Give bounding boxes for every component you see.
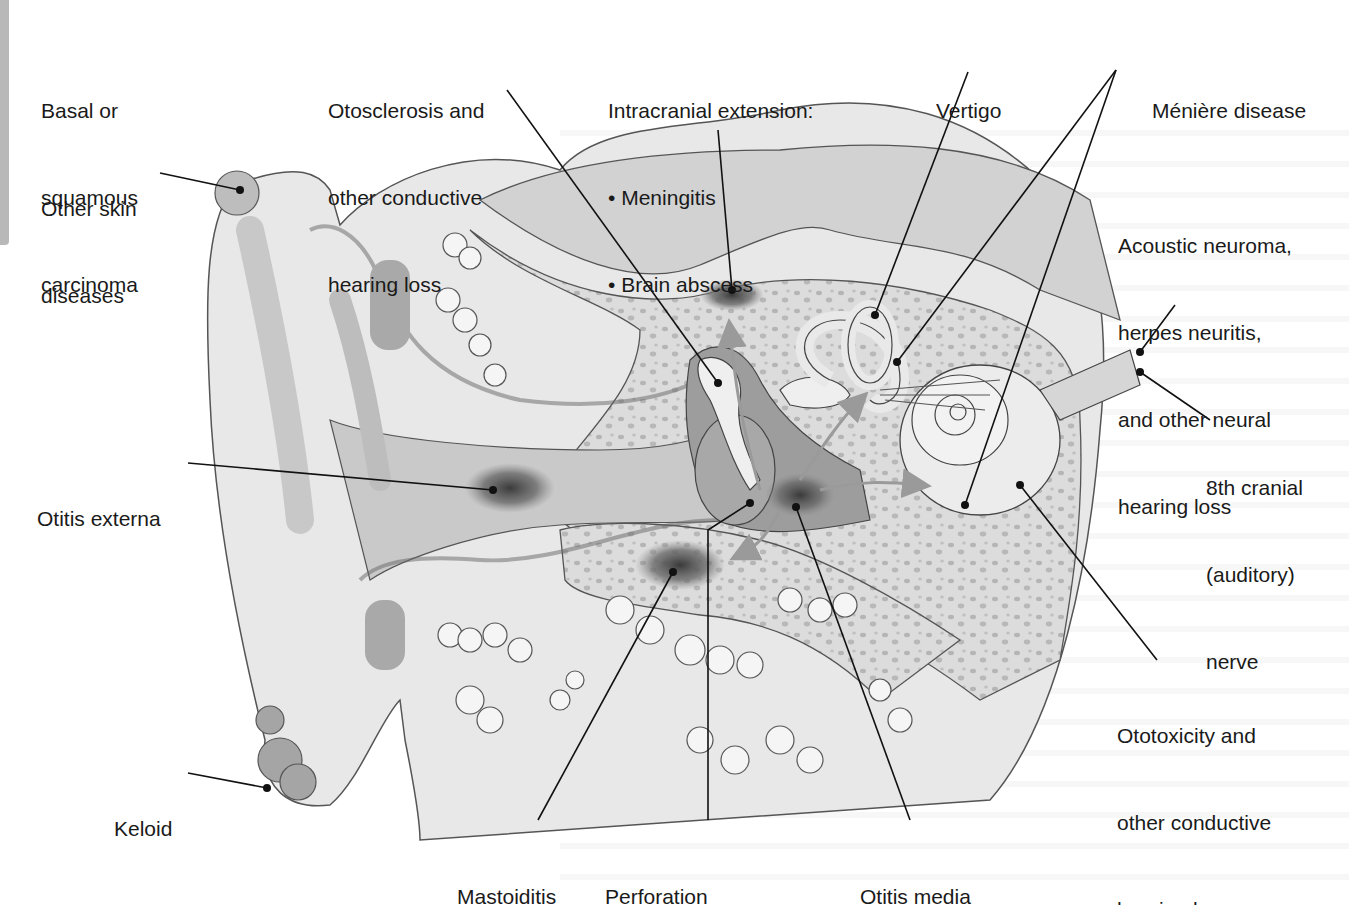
label-keloid: Keloid [114, 756, 172, 872]
label-meniere-disease: Ménière disease [1152, 38, 1306, 154]
label-other-skin-diseases: Other skin diseases [41, 136, 137, 339]
label-vertigo: Vertigo [936, 38, 1001, 154]
label-8th-cranial-nerve: 8th cranial (auditory) nerve [1206, 415, 1303, 705]
mastoiditis-lesion [635, 540, 725, 590]
label-mastoiditis: Mastoiditis [457, 824, 556, 905]
skin-nodule [215, 171, 259, 215]
label-otitis-media: Otitis media [860, 824, 971, 905]
label-ototoxicity: Ototoxicity and other conductive hearing… [1117, 663, 1271, 905]
label-otosclerosis: Otosclerosis and other conductive hearin… [328, 38, 484, 328]
label-perforation-cholesteatoma: Perforation Cholesteatoma [605, 824, 746, 905]
label-intracranial-extension: Intracranial extension: • Meningitis • B… [608, 38, 813, 328]
label-otitis-externa: Otitis externa [37, 446, 161, 562]
